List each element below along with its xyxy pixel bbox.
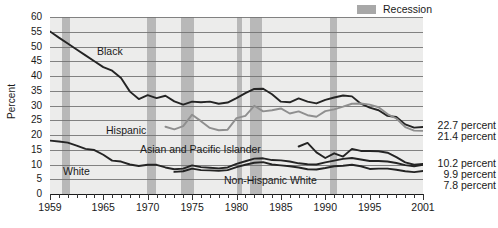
x-tick-minor: [245, 194, 246, 198]
end-label-hispanic: 21.4 percent: [428, 131, 496, 143]
y-tick-label: 55: [2, 27, 42, 37]
series-lines: [50, 17, 423, 194]
x-tick-minor: [183, 194, 184, 198]
series-annotation-non-hispanic-white: Non-Hispanic White: [224, 175, 317, 186]
x-tick-major: [325, 194, 326, 200]
x-tick-minor: [334, 194, 335, 198]
x-tick-minor: [396, 194, 397, 198]
chart-legend: Recession: [357, 4, 432, 15]
y-tick-label: 45: [2, 56, 42, 66]
x-tick-minor: [414, 194, 415, 198]
x-tick-minor: [272, 194, 273, 198]
y-tick-label: 0: [2, 189, 42, 199]
plot-area: Black Hispanic Asian and Pacific Islande…: [50, 17, 423, 194]
series-line-asian-and-pacific-islander: [299, 143, 423, 165]
x-tick-major: [237, 194, 238, 200]
y-tick-label: 20: [2, 130, 42, 140]
poverty-rate-chart: Recession Percent 0510152025303540455055…: [0, 0, 498, 228]
x-tick-minor: [299, 194, 300, 198]
x-tick-major: [370, 194, 371, 200]
x-tick-minor: [361, 194, 362, 198]
end-label-non-hispanic-white: 7.8 percent: [428, 180, 496, 192]
series-annotation-white: White: [63, 166, 90, 177]
x-tick-minor: [86, 194, 87, 198]
x-tick-label: 1990: [314, 201, 337, 213]
x-tick-minor: [201, 194, 202, 198]
x-tick-minor: [210, 194, 211, 198]
series-annotation-black: Black: [97, 46, 123, 57]
y-tick-label: 10: [2, 160, 42, 170]
x-tick-minor: [228, 194, 229, 198]
x-tick-minor: [157, 194, 158, 198]
x-tick-major: [148, 194, 149, 200]
x-tick-major: [192, 194, 193, 200]
x-tick-major: [281, 194, 282, 200]
x-tick-minor: [77, 194, 78, 198]
y-tick-label: 35: [2, 86, 42, 96]
x-tick-label: 1959: [38, 201, 61, 213]
x-tick-major: [423, 194, 424, 200]
y-tick-label: 30: [2, 101, 42, 111]
x-tick-minor: [174, 194, 175, 198]
x-tick-minor: [308, 194, 309, 198]
y-tick-label: 25: [2, 115, 42, 125]
x-tick-minor: [343, 194, 344, 198]
x-tick-minor: [139, 194, 140, 198]
x-tick-minor: [290, 194, 291, 198]
x-tick-minor: [112, 194, 113, 198]
series-line-hispanic: [165, 103, 423, 130]
series-annotation-asian: Asian and Pacific Islander: [140, 144, 261, 155]
x-tick-minor: [316, 194, 317, 198]
x-tick-label: 1995: [358, 201, 381, 213]
y-tick-label: 60: [2, 12, 42, 22]
y-tick-label: 5: [2, 174, 42, 184]
recession-swatch-icon: [357, 5, 376, 14]
x-tick-minor: [219, 194, 220, 198]
x-tick-label: 1985: [269, 201, 292, 213]
x-tick-label: 1965: [92, 201, 115, 213]
y-tick-label: 50: [2, 42, 42, 52]
x-tick-minor: [387, 194, 388, 198]
x-tick-minor: [165, 194, 166, 198]
x-tick-minor: [121, 194, 122, 198]
x-tick-minor: [405, 194, 406, 198]
x-tick-minor: [59, 194, 60, 198]
x-tick-minor: [130, 194, 131, 198]
x-tick-label: 2001: [411, 201, 434, 213]
x-tick-minor: [352, 194, 353, 198]
x-tick-minor: [254, 194, 255, 198]
x-tick-minor: [94, 194, 95, 198]
x-tick-label: 1970: [136, 201, 159, 213]
x-tick-major: [50, 194, 51, 200]
y-tick-label: 15: [2, 145, 42, 155]
y-tick-label: 40: [2, 71, 42, 81]
x-tick-minor: [68, 194, 69, 198]
x-tick-minor: [379, 194, 380, 198]
x-tick-label: 1975: [180, 201, 203, 213]
x-tick-minor: [263, 194, 264, 198]
x-tick-major: [103, 194, 104, 200]
x-tick-label: 1980: [225, 201, 248, 213]
series-annotation-hispanic: Hispanic: [106, 125, 146, 136]
legend-label-recession: Recession: [383, 4, 432, 15]
